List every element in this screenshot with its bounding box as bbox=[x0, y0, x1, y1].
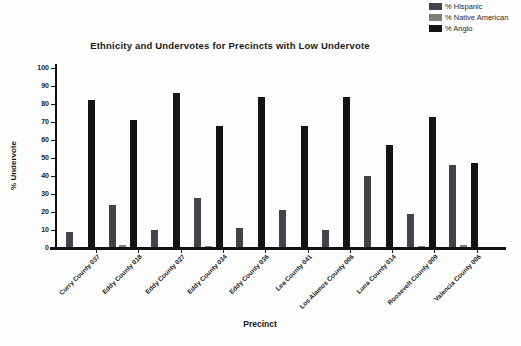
y-axis-title: % Undervote bbox=[9, 131, 20, 201]
x-category-label: Roosevelt County 009 bbox=[350, 253, 440, 343]
legend-item-hispanic: % Hispanic bbox=[429, 1, 508, 12]
y-tick-label: 80 bbox=[29, 100, 49, 107]
x-category-label: Los Alamos County 006 bbox=[265, 253, 355, 343]
legend-label-anglo: % Anglo bbox=[445, 24, 473, 33]
y-tick-label: 20 bbox=[29, 208, 49, 215]
y-tick-label: 40 bbox=[29, 172, 49, 179]
bar bbox=[66, 232, 73, 248]
bar bbox=[151, 230, 158, 248]
y-axis-line bbox=[55, 64, 57, 249]
bar bbox=[109, 205, 116, 248]
bar bbox=[88, 100, 95, 248]
x-category-label: Eddy County 034 bbox=[138, 253, 228, 343]
x-category-label: Eddy County 018 bbox=[53, 253, 143, 343]
x-category-label: Luna County 014 bbox=[307, 253, 397, 343]
x-category-label: Eddy County 036 bbox=[180, 253, 270, 343]
legend-item-anglo: % Anglo bbox=[429, 23, 508, 34]
y-tick-label: 90 bbox=[29, 82, 49, 89]
hispanic-color-swatch bbox=[429, 3, 442, 10]
anglo-color-swatch bbox=[429, 25, 442, 32]
legend-label-hispanic: % Hispanic bbox=[445, 2, 483, 11]
bar bbox=[471, 163, 478, 248]
bar bbox=[258, 97, 265, 248]
bar bbox=[173, 93, 180, 248]
bar bbox=[343, 97, 350, 248]
x-category-label: Eddy County 027 bbox=[96, 253, 186, 343]
y-tick-label: 0 bbox=[29, 244, 49, 251]
bar bbox=[216, 126, 223, 248]
y-tick-label: 50 bbox=[29, 154, 49, 161]
bar bbox=[194, 198, 201, 248]
legend: % Hispanic % Native American % Anglo bbox=[429, 1, 508, 34]
bar bbox=[301, 126, 308, 248]
y-tick-label: 30 bbox=[29, 190, 49, 197]
x-category-label: Curry County 037 bbox=[11, 253, 101, 343]
y-tick-label: 60 bbox=[29, 136, 49, 143]
x-category-label: Valencia County 006 bbox=[392, 253, 482, 343]
x-axis-title: Precinct bbox=[200, 319, 320, 329]
bar bbox=[429, 117, 436, 248]
y-tick-label: 100 bbox=[29, 64, 49, 71]
bar bbox=[407, 214, 414, 248]
bar bbox=[130, 120, 137, 248]
x-category-label: Lea County 041 bbox=[223, 253, 313, 343]
bar-chart-figure: % Hispanic % Native American % Anglo Eth… bbox=[0, 0, 521, 346]
bar bbox=[236, 228, 243, 248]
x-axis-line bbox=[50, 247, 506, 250]
bar bbox=[279, 210, 286, 248]
bar bbox=[449, 165, 456, 248]
bar bbox=[322, 230, 329, 248]
bar bbox=[386, 145, 393, 248]
chart-title: Ethnicity and Undervotes for Precincts w… bbox=[0, 40, 460, 51]
y-tick-label: 70 bbox=[29, 118, 49, 125]
native-american-color-swatch bbox=[429, 14, 442, 21]
legend-label-native-american: % Native American bbox=[445, 13, 508, 22]
bar bbox=[364, 176, 371, 248]
legend-item-native-american: % Native American bbox=[429, 12, 508, 23]
y-tick-label: 10 bbox=[29, 226, 49, 233]
